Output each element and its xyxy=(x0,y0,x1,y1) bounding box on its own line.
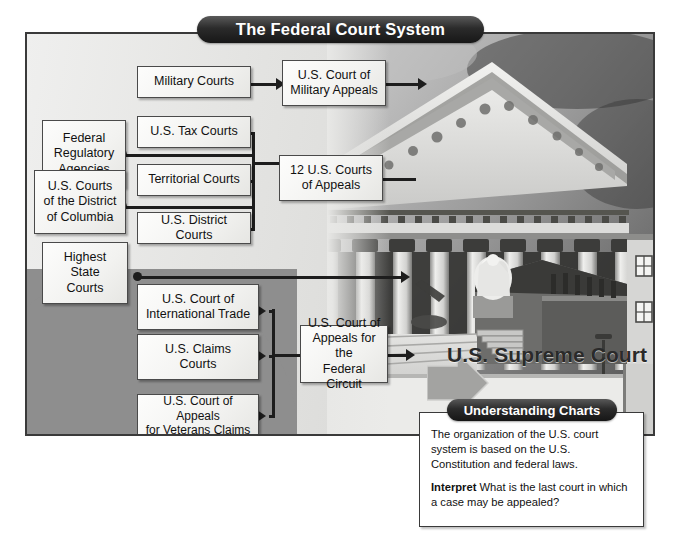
diagram-frame: Federal Regulatory Agencies U.S. Courts … xyxy=(25,32,655,436)
box-twelve-us-courts-appeals-label: 12 U.S. Courts of Appeals xyxy=(290,163,372,194)
arrow-military-appeals-to-supreme xyxy=(418,78,427,90)
box-us-claims-courts-label: U.S. Claims Courts xyxy=(165,342,231,373)
connector-12appeals-to-supreme xyxy=(382,178,416,181)
box-us-court-appeals-federal-circuit[interactable]: U.S. Court of Appeals for the Federal Ci… xyxy=(300,325,388,383)
connector-bus-to-appeals-box xyxy=(252,162,279,165)
box-highest-state-courts[interactable]: Highest State Courts xyxy=(42,242,128,304)
box-us-courts-district-columbia-label: U.S. Courts of the District of Columbia xyxy=(44,179,117,225)
arrow-federal-circuit-to-supreme xyxy=(406,349,415,361)
connector-veterans-to-bus xyxy=(269,415,275,418)
box-us-court-appeals-veterans-label: U.S. Court of Appeals for Veterans Claim… xyxy=(141,394,255,436)
box-us-claims-courts[interactable]: U.S. Claims Courts xyxy=(137,334,259,380)
connector-dc-to-bus xyxy=(122,206,255,209)
box-us-tax-courts[interactable]: U.S. Tax Courts xyxy=(137,116,251,148)
box-us-courts-district-columbia[interactable]: U.S. Courts of the District of Columbia xyxy=(34,170,126,234)
connector-intltrade-to-bus xyxy=(269,310,275,313)
understanding-charts-question-label: Interpret xyxy=(431,481,476,493)
understanding-charts-body: The organization of the U.S. court syste… xyxy=(431,427,632,471)
box-military-courts-label: Military Courts xyxy=(154,74,234,89)
understanding-charts-question-row: Interpret What is the last court in whic… xyxy=(431,480,632,510)
arrow-state-to-supreme xyxy=(401,271,410,283)
supreme-court-label-text: U.S. Supreme Court xyxy=(447,343,647,366)
understanding-charts-panel: The organization of the U.S. court syste… xyxy=(419,412,644,527)
box-us-district-courts-label: U.S. District Courts xyxy=(141,213,247,244)
connector-state-to-supreme xyxy=(137,276,407,279)
box-us-court-international-trade-label: U.S. Court of International Trade xyxy=(146,292,250,323)
page-title: The Federal Court System xyxy=(197,16,484,43)
supreme-court-label: U.S. Supreme Court xyxy=(447,343,647,367)
box-us-court-military-appeals[interactable]: U.S. Court of Military Appeals xyxy=(282,60,386,106)
box-twelve-us-courts-appeals[interactable]: 12 U.S. Courts of Appeals xyxy=(279,155,383,201)
connector-bus-federal-circuit xyxy=(272,309,275,416)
connector-dot-state xyxy=(133,272,142,281)
box-us-tax-courts-label: U.S. Tax Courts xyxy=(150,124,237,139)
box-us-court-international-trade[interactable]: U.S. Court of International Trade xyxy=(137,284,259,330)
box-territorial-courts[interactable]: Territorial Courts xyxy=(137,164,251,196)
box-territorial-courts-label: Territorial Courts xyxy=(148,172,240,187)
understanding-charts-banner: Understanding Charts xyxy=(447,399,617,421)
box-us-court-military-appeals-label: U.S. Court of Military Appeals xyxy=(290,68,378,99)
box-us-court-appeals-veterans[interactable]: U.S. Court of Appeals for Veterans Claim… xyxy=(137,394,259,436)
page-title-label: The Federal Court System xyxy=(236,20,445,39)
connector-bus-to-federal-circuit-box xyxy=(272,354,300,357)
understanding-charts-banner-label: Understanding Charts xyxy=(464,403,601,418)
connector-military-appeals-to-supreme xyxy=(385,83,419,86)
connector-federal-circuit-to-supreme xyxy=(386,354,408,357)
connector-claims-to-bus xyxy=(269,355,275,358)
box-us-court-appeals-federal-circuit-label: U.S. Court of Appeals for the Federal Ci… xyxy=(304,316,384,392)
box-us-district-courts[interactable]: U.S. District Courts xyxy=(137,212,251,244)
box-military-courts[interactable]: Military Courts xyxy=(137,66,251,98)
box-highest-state-courts-label: Highest State Courts xyxy=(64,250,106,296)
connector-regulatory-to-bus xyxy=(122,154,255,157)
